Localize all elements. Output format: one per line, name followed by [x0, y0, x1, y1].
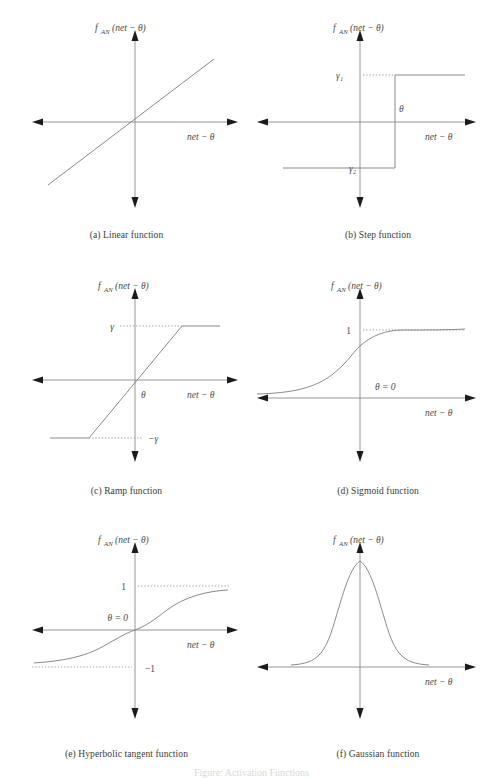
chart-linear: f AN (net − θ) net − θ	[2, 0, 252, 232]
x-axis-arrow-left	[32, 377, 43, 384]
x-axis-arrow-right	[227, 119, 238, 126]
y-axis-label-sub: AN	[100, 28, 110, 35]
y-axis-label-rest: (net − θ)	[350, 23, 384, 34]
chart-gaussian: f AN (net − θ) net − θ	[253, 515, 503, 751]
x-axis-label: net − θ	[187, 132, 215, 142]
y-axis-label-sub: AN	[103, 286, 113, 293]
tanh-curve	[34, 590, 228, 663]
caption-linear: (a) Linear function	[0, 230, 253, 240]
x-axis-label: net − θ	[187, 390, 215, 400]
y-axis-arrow-down	[357, 708, 364, 719]
y-axis-label-sub: AN	[338, 28, 348, 35]
label-theta: θ	[399, 104, 404, 114]
chart-sigmoid: f AN (net − θ) net − θ 1 θ = 0	[253, 258, 503, 488]
caption-ramp: (c) Ramp function	[0, 486, 253, 496]
caption-gaussian: (f) Gaussian function	[253, 749, 503, 759]
panel-sigmoid: f AN (net − θ) net − θ 1 θ = 0 (d) Sigmo…	[253, 258, 503, 515]
y-axis-label-step: f AN (net − θ)	[333, 23, 384, 35]
y-axis-label-f: f	[331, 281, 335, 291]
x-axis-label: net − θ	[425, 408, 453, 418]
y-axis-label-ramp: f AN (net − θ)	[98, 281, 149, 293]
y-axis-label-rest: (net − θ)	[348, 281, 382, 292]
label-theta-zero: θ = 0	[375, 382, 396, 392]
x-axis-arrow-right	[227, 627, 238, 634]
y-axis-label-rest: (net − θ)	[112, 23, 146, 34]
x-axis-arrow-left	[257, 664, 268, 671]
panel-tanh: f AN (net − θ) net − θ 1 −1 θ = 0 (e) Hy…	[0, 515, 253, 776]
label-gamma2: γ₂	[349, 164, 357, 174]
y-axis-label-rest: (net − θ)	[350, 535, 384, 546]
label-theta: θ	[141, 390, 146, 400]
y-axis-label-rest: (net − θ)	[115, 535, 149, 546]
y-axis-arrow-down	[131, 708, 138, 719]
figure-bottom-caption: Figure: Activation Functions	[0, 767, 503, 778]
x-axis-arrow-right	[227, 377, 238, 384]
chart-step: f AN (net − θ) net − θ γ₁ γ₂ θ	[253, 0, 503, 232]
x-axis-arrow-right	[465, 395, 476, 402]
x-axis-arrow-right	[465, 664, 476, 671]
x-axis-arrow-right	[465, 119, 476, 126]
label-theta-zero: θ = 0	[107, 613, 128, 623]
y-axis-label-f: f	[333, 23, 337, 33]
x-axis-label: net − θ	[425, 677, 453, 687]
y-axis-label-f: f	[98, 281, 102, 291]
caption-tanh: (e) Hyperbolic tangent function	[0, 749, 253, 759]
y-axis-label-f: f	[95, 23, 99, 33]
chart-tanh: f AN (net − θ) net − θ 1 −1 θ = 0	[2, 515, 252, 751]
y-axis-label-gaussian: f AN (net − θ)	[333, 535, 384, 547]
y-axis-label-f: f	[333, 535, 337, 545]
caption-step: (b) Step function	[253, 230, 503, 240]
label-one: 1	[121, 582, 126, 592]
y-axis-arrow-down	[131, 197, 138, 208]
x-axis-label: net − θ	[425, 132, 453, 142]
sigmoid-curve	[257, 329, 465, 394]
label-one: 1	[346, 326, 351, 336]
panel-linear: f AN (net − θ) net − θ (a) Linear functi…	[0, 0, 253, 258]
x-axis-arrow-left	[32, 627, 43, 634]
y-axis-arrow-down	[357, 197, 364, 208]
y-axis-label-tanh: f AN (net − θ)	[98, 535, 149, 547]
step-curve	[283, 75, 465, 168]
label-gamma: γ	[110, 322, 114, 332]
caption-sigmoid: (d) Sigmoid function	[253, 486, 503, 496]
x-axis-arrow-left	[257, 119, 268, 126]
chart-ramp: f AN (net − θ) net − θ γ −γ θ	[2, 258, 252, 488]
panel-step: f AN (net − θ) net − θ γ₁ γ₂ θ (b) Step …	[253, 0, 503, 258]
y-axis-label-sub: AN	[338, 540, 348, 547]
x-axis-arrow-left	[32, 119, 43, 126]
y-axis-label-sigmoid: f AN (net − θ)	[331, 281, 382, 293]
x-axis-label: net − θ	[187, 640, 215, 650]
y-axis-label-f: f	[98, 535, 102, 545]
y-axis-arrow-down	[131, 451, 138, 462]
panel-ramp: f AN (net − θ) net − θ γ −γ θ (c) Ramp f…	[0, 258, 253, 515]
panel-gaussian: f AN (net − θ) net − θ (f) Gaussian func…	[253, 515, 503, 776]
y-axis-arrow-down	[357, 451, 364, 462]
label-neg-gamma: −γ	[148, 434, 158, 444]
y-axis-label-sub: AN	[336, 286, 346, 293]
y-axis-label-rest: (net − θ)	[115, 281, 149, 292]
label-gamma1: γ₁	[336, 71, 343, 81]
y-axis-label-linear: f AN (net − θ)	[95, 23, 146, 35]
y-axis-label-sub: AN	[103, 540, 113, 547]
label-neg-one: −1	[145, 664, 155, 674]
x-axis-arrow-left	[257, 395, 268, 402]
